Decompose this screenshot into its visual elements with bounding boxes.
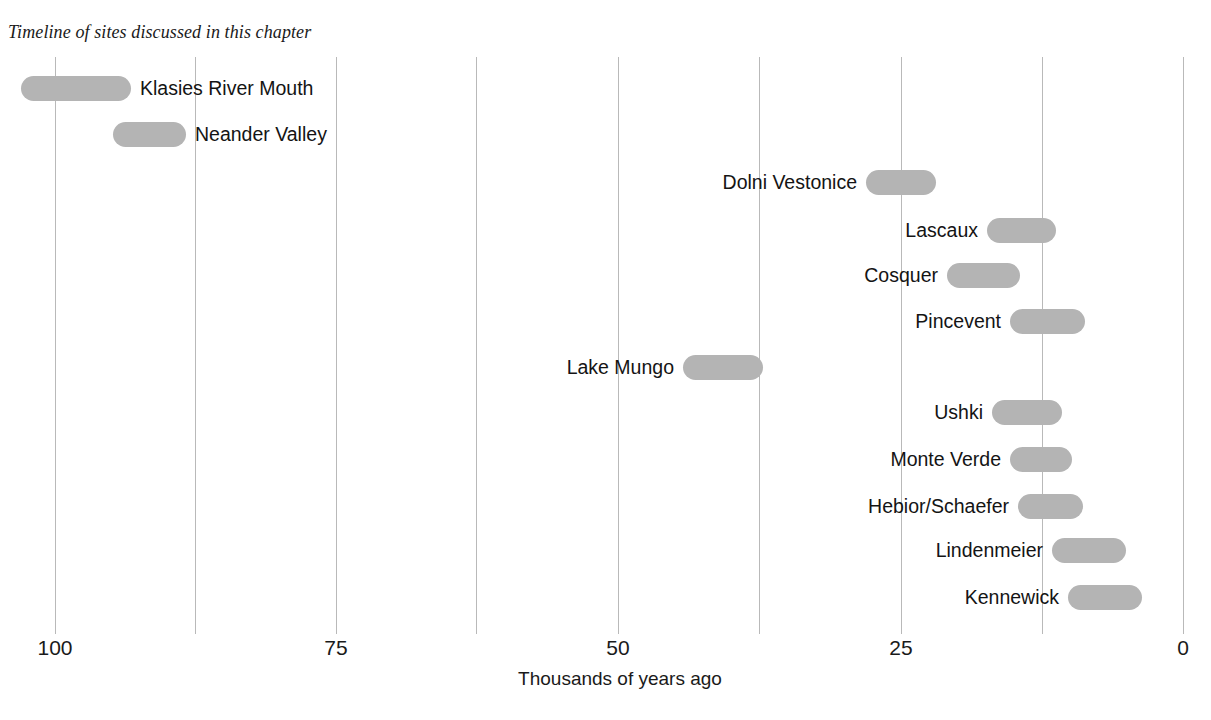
- gridline-25: [901, 57, 902, 634]
- gridline-37.5: [759, 57, 760, 634]
- timeline-bar: [987, 218, 1056, 243]
- bar-label: Lindenmeier: [936, 538, 1043, 563]
- x-tick-100: 100: [37, 636, 72, 660]
- gridline-75: [336, 57, 337, 634]
- gridline-50: [618, 57, 619, 634]
- timeline-bar: [992, 400, 1062, 425]
- timeline-bar: [113, 122, 186, 147]
- timeline-bar: [947, 263, 1020, 288]
- timeline-chart: Timeline of sites discussed in this chap…: [0, 0, 1211, 720]
- timeline-bar: [1018, 494, 1083, 519]
- bar-label: Monte Verde: [890, 447, 1001, 472]
- bar-label: Neander Valley: [195, 122, 327, 147]
- bar-label: Cosquer: [864, 263, 938, 288]
- timeline-bar: [1068, 585, 1142, 610]
- timeline-bar: [683, 355, 763, 380]
- x-axis-title: Thousands of years ago: [518, 668, 722, 690]
- gridline-0: [1183, 57, 1184, 634]
- bar-label: Dolni Vestonice: [723, 170, 857, 195]
- x-tick-0: 0: [1177, 636, 1189, 660]
- bar-label: Lake Mungo: [567, 355, 674, 380]
- bar-label: Kennewick: [965, 585, 1059, 610]
- gridline-100: [55, 57, 56, 634]
- bar-label: Lascaux: [905, 218, 978, 243]
- bar-label: Pincevent: [915, 309, 1001, 334]
- chart-title: Timeline of sites discussed in this chap…: [8, 22, 311, 43]
- bar-label: Ushki: [934, 400, 983, 425]
- bar-label: Klasies River Mouth: [140, 76, 313, 101]
- timeline-bar: [866, 170, 936, 195]
- timeline-bar: [1010, 447, 1072, 472]
- bar-label: Hebior/Schaefer: [868, 494, 1009, 519]
- timeline-bar: [1010, 309, 1085, 334]
- x-tick-50: 50: [606, 636, 629, 660]
- x-tick-75: 75: [324, 636, 347, 660]
- timeline-bar: [21, 76, 131, 101]
- x-tick-25: 25: [889, 636, 912, 660]
- timeline-bar: [1052, 538, 1126, 563]
- gridline-62.5: [476, 57, 477, 634]
